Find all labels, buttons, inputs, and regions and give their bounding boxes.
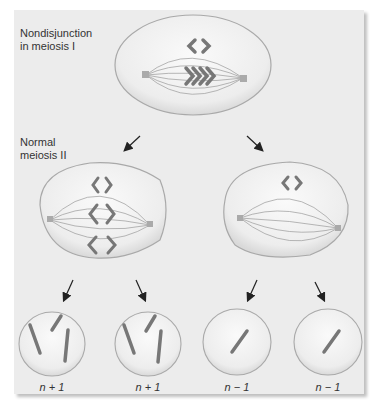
centrosome [335, 225, 341, 231]
daughter-label-4: n − 1 [298, 381, 358, 393]
arrow-down-right [247, 136, 262, 150]
label-line-2: in meiosis I [20, 40, 92, 53]
label-line-1: Normal [20, 136, 66, 149]
daughter-label-1: n + 1 [22, 381, 82, 393]
normal-meiosis-label: Normal meiosis II [20, 136, 66, 162]
meiosis-ii-cell-left [40, 163, 166, 259]
meiosis-ii-cell-right [224, 162, 348, 257]
daughter-label-3: n − 1 [207, 381, 267, 393]
arrow-down-left [125, 136, 140, 150]
daughter-cell-1 [19, 312, 85, 376]
arrow-to-daughter-3 [248, 280, 257, 300]
centrosome [47, 216, 53, 222]
meiosis-i-cell [115, 15, 271, 115]
centrosome [237, 215, 243, 221]
arrow-to-daughter-2 [136, 280, 145, 300]
daughter-cell-4 [294, 309, 362, 375]
arrow-to-daughter-1 [64, 280, 73, 300]
daughter-label-2: n + 1 [118, 381, 178, 393]
centrosome-right [240, 75, 247, 82]
centrosome [147, 221, 153, 227]
label-line-2: meiosis II [20, 149, 66, 162]
label-line-1: Nondisjunction [20, 27, 92, 40]
arrow-to-daughter-4 [315, 282, 324, 300]
meiosis-diagram [0, 0, 379, 404]
daughter-cell-3 [203, 309, 271, 375]
centrosome-left [142, 71, 149, 78]
daughter-cell-2 [115, 312, 181, 376]
nondisjunction-label: Nondisjunction in meiosis I [20, 27, 92, 53]
